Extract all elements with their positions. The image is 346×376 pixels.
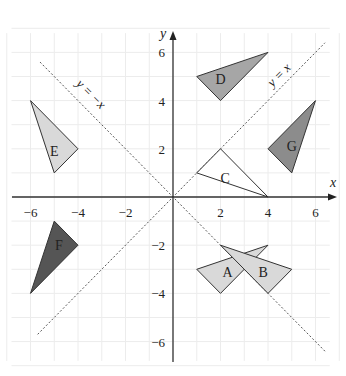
triangle-label-f: F (55, 238, 63, 253)
y-tick-label: 2 (159, 142, 166, 157)
y-tick-label: −6 (151, 335, 165, 350)
triangle-label-c: C (221, 171, 230, 186)
triangle-label-g: G (287, 139, 297, 154)
x-axis-label: x (329, 175, 337, 190)
x-tick-label: 4 (265, 205, 272, 220)
y-tick-label: 4 (159, 94, 166, 109)
y-axis-arrow-icon (170, 31, 177, 40)
reflection-line-labels: y = x y = −x (72, 60, 294, 112)
x-tick-label: 2 (217, 205, 224, 220)
triangle-label-d: D (215, 72, 225, 87)
y-tick-label: −2 (151, 238, 165, 253)
y-axis-label: y (158, 26, 167, 41)
x-axis-arrow-icon (328, 194, 337, 201)
y-tick-label: 6 (159, 45, 166, 60)
triangle-label-e: E (50, 144, 59, 159)
y-tick-label: −4 (151, 286, 165, 301)
x-tick-label: −2 (119, 205, 133, 220)
coordinate-grid-diagram: ABCDEFG x y −6−4−2246642−2−4−6 y = x y =… (0, 0, 346, 376)
label-y-equals-neg-x: y = −x (72, 75, 109, 112)
label-y-equals-x: y = x (263, 60, 294, 91)
triangle-label-b: B (259, 265, 268, 280)
triangle-label-a: A (223, 265, 234, 280)
x-tick-label: −6 (24, 205, 38, 220)
x-tick-label: −4 (71, 205, 85, 220)
x-tick-label: 6 (312, 205, 319, 220)
